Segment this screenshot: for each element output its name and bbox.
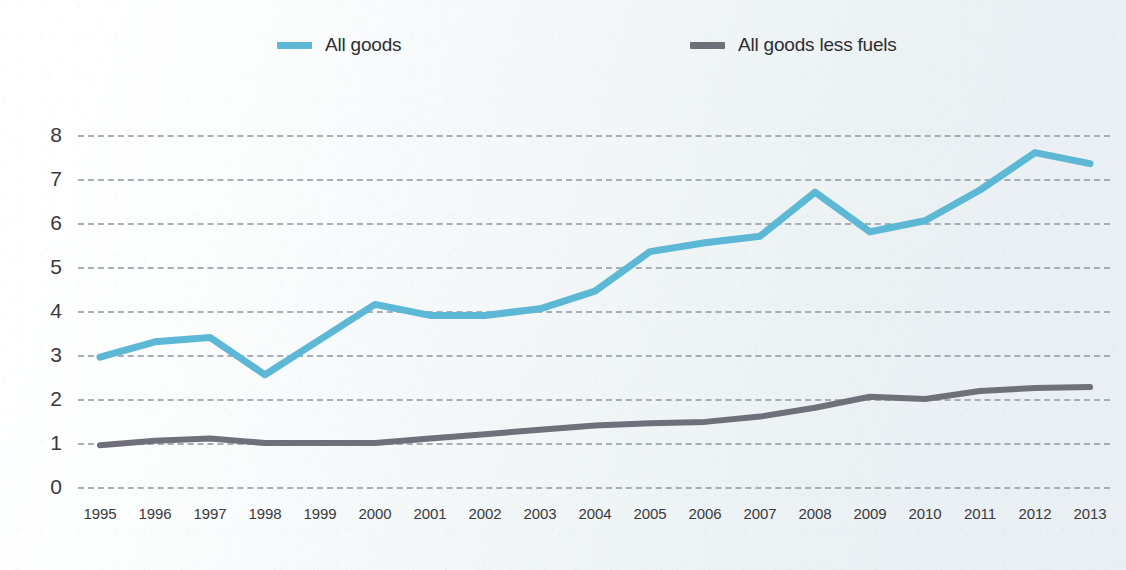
series-line-all-goods-less-fuels: [100, 387, 1090, 445]
plot-area: 876543210 199519961997199819992000200120…: [0, 0, 1126, 570]
series-line-all-goods: [100, 153, 1090, 375]
series-layer: [0, 0, 1126, 570]
line-chart-figure: All goods All goods less fuels 876543210…: [0, 0, 1126, 570]
